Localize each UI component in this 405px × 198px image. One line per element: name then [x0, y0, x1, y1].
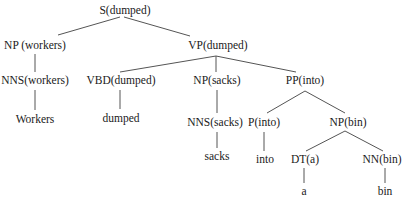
tree-node-nns2: NNS(sacks): [187, 117, 243, 129]
tree-node-np3: NP(bin): [329, 117, 366, 129]
tree-node-nn: NN(bin): [363, 154, 402, 166]
tree-edge-pp-np3: [305, 91, 345, 113]
tree-edge-s-vp: [124, 17, 190, 36]
tree-node-nns1: NNS(workers): [1, 75, 69, 87]
tree-node-vp: VP(dumped): [188, 40, 247, 52]
tree-edge-np3-dt: [306, 131, 345, 151]
tree-node-w3: sacks: [205, 151, 230, 163]
tree-edge-s-np1: [58, 17, 120, 35]
tree-node-w4: into: [256, 154, 274, 166]
parse-tree-edges: [0, 0, 405, 198]
tree-node-w2: dumped: [102, 113, 139, 125]
tree-edge-pp-p: [267, 91, 305, 113]
tree-node-np2: NP(sacks): [193, 75, 240, 87]
tree-edge-np3-nn: [345, 131, 383, 151]
tree-node-pp: PP(into): [286, 75, 324, 87]
tree-node-w6: bin: [378, 186, 393, 198]
tree-node-vbd: VBD(dumped): [87, 75, 156, 87]
tree-edge-vp-vbd: [120, 56, 216, 72]
tree-node-s: S(dumped): [99, 5, 150, 17]
tree-node-np1: NP (workers): [4, 40, 66, 52]
tree-node-w5: a: [301, 186, 306, 198]
tree-node-dt: DT(a): [291, 154, 319, 166]
tree-node-p: P(into): [248, 117, 280, 129]
tree-node-w1: Workers: [16, 114, 55, 126]
tree-edge-vp-pp: [216, 56, 296, 72]
